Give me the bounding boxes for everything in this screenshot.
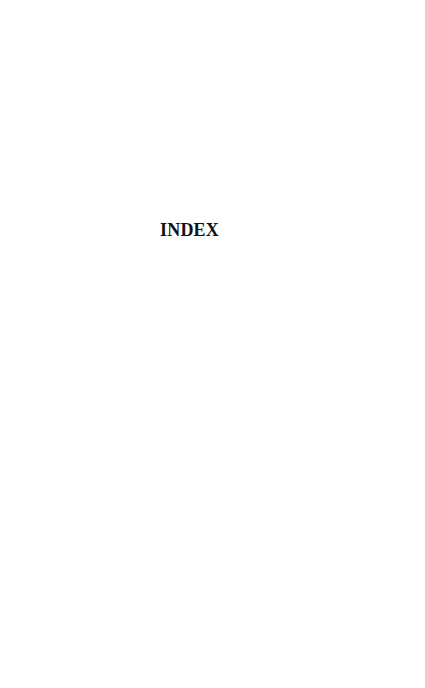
document-page: INDEX [0,0,425,688]
page-title: INDEX [160,220,219,240]
